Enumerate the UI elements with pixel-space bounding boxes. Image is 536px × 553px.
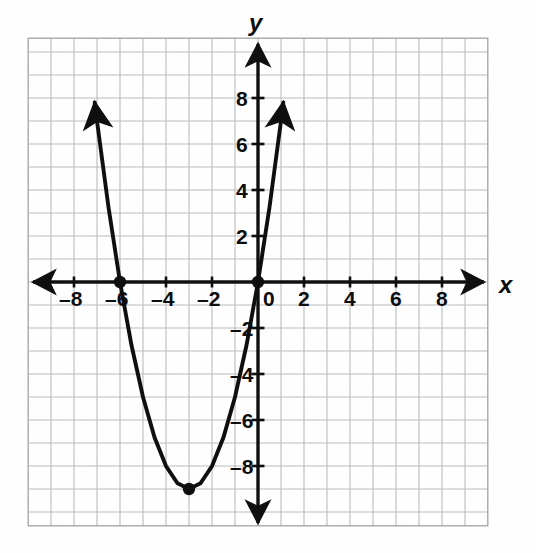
x-axis-label: x <box>499 273 512 297</box>
x-tick-label: –4 <box>151 288 174 309</box>
graph-figure: x y 0 –8–6–4–22468 8642–2–4–6–8 <box>0 0 536 553</box>
page-background <box>0 0 536 553</box>
coordinate-plane-svg <box>0 0 536 553</box>
x-tick-label: 6 <box>390 288 402 309</box>
x-tick-label: 4 <box>344 288 356 309</box>
x-tick-label: –2 <box>197 288 220 309</box>
y-tick-label: –8 <box>230 456 253 477</box>
y-axis-label: y <box>249 11 262 35</box>
y-tick-label: –6 <box>230 410 253 431</box>
x-tick-label: –6 <box>105 288 128 309</box>
y-tick-label: 8 <box>236 88 248 109</box>
y-tick-label: 2 <box>236 226 248 247</box>
point-marker-vertex <box>183 483 195 495</box>
y-tick-label: –2 <box>230 318 253 339</box>
y-tick-label: –4 <box>230 364 253 385</box>
x-tick-label: 8 <box>436 288 448 309</box>
origin-tick-label: 0 <box>263 288 275 309</box>
x-tick-label: 2 <box>298 288 310 309</box>
y-tick-label: 4 <box>236 180 248 201</box>
y-tick-label: 6 <box>236 134 248 155</box>
x-tick-label: –8 <box>59 288 82 309</box>
